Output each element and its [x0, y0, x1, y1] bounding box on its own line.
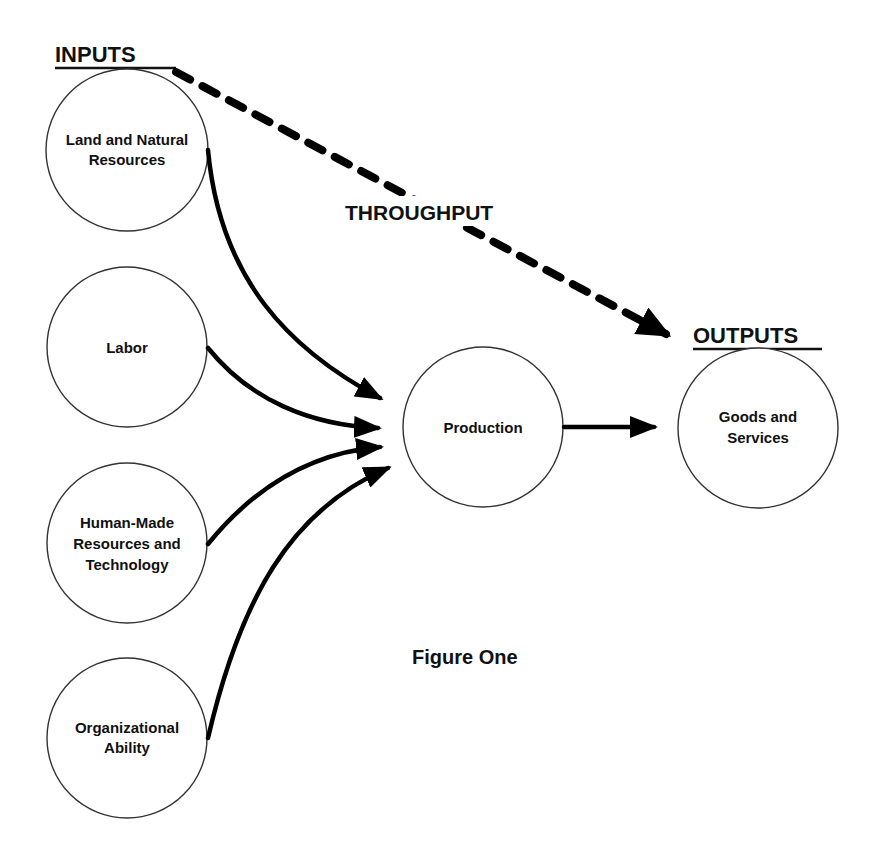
node-circle [46, 69, 208, 231]
production-flow-diagram: INPUTS THROUGHPUT OUTPUTS Land and Natur… [0, 0, 874, 850]
node-label-line: Ability [104, 739, 150, 756]
node-circle [47, 658, 207, 818]
node-label-line: Goods and [719, 408, 797, 425]
node-label-line: Technology [85, 556, 169, 573]
arrow-human-made-to-production [208, 447, 380, 544]
node-circle [678, 348, 838, 508]
outputs-heading: OUTPUTS [693, 323, 822, 349]
arrow-land-to-production [208, 150, 380, 398]
inputs-heading: INPUTS [55, 42, 176, 68]
inputs-heading-text: INPUTS [55, 42, 136, 67]
node-label-line: Organizational [75, 719, 179, 736]
node-organizational-ability: Organizational Ability [47, 658, 207, 818]
arrow-organizational-to-production [208, 468, 388, 738]
throughput-label: THROUGHPUT [342, 196, 538, 226]
node-production: Production [403, 347, 563, 507]
node-label-line: Resources and [73, 535, 181, 552]
node-goods-and-services: Goods and Services [678, 348, 838, 508]
node-label-line: Human-Made [80, 514, 174, 531]
node-labor: Labor [47, 267, 207, 427]
arrow-labor-to-production [208, 348, 378, 428]
node-label-line: Land and Natural [66, 131, 189, 148]
node-land-and-natural-resources: Land and Natural Resources [46, 69, 208, 231]
node-label-line: Production [443, 419, 522, 436]
throughput-label-text: THROUGHPUT [345, 201, 493, 224]
node-label-line: Labor [106, 339, 148, 356]
node-label-line: Resources [89, 151, 166, 168]
figure-caption: Figure One [412, 646, 518, 668]
node-human-made-resources-and-technology: Human-Made Resources and Technology [47, 463, 207, 623]
outputs-heading-text: OUTPUTS [693, 323, 798, 348]
node-label-line: Services [727, 429, 789, 446]
